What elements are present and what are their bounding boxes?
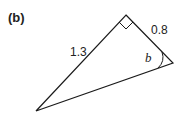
angle-label: b [145,50,152,65]
side-label: 0.8 [151,23,168,37]
right-angle-marker [119,22,133,29]
angle-arc [158,52,163,68]
triangle-diagram: 1.3 0.8 b [0,0,181,117]
hypotenuse-label: 1.3 [70,45,87,59]
